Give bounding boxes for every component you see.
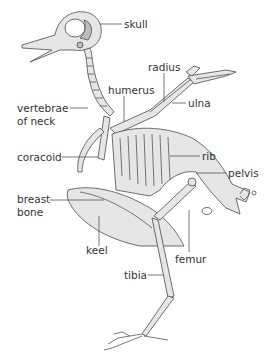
label-rib: rib: [202, 150, 216, 162]
label-tibia: tibia: [124, 269, 147, 281]
label-skull: skull: [124, 18, 148, 30]
label-humerus: humerus: [108, 84, 154, 96]
neck-vertebrae-shape: [84, 48, 114, 116]
label-femur: femur: [175, 253, 206, 265]
label-coracoid: coracoid: [17, 151, 62, 163]
label-pelvis: pelvis: [228, 167, 259, 179]
label-radius: radius: [148, 61, 180, 73]
wing-shape: [110, 66, 236, 134]
label-of-neck: of neck: [17, 115, 55, 127]
label-bone: bone: [17, 206, 43, 218]
breastbone-keel-shape: [67, 188, 184, 246]
label-vertebrae: vertebrae: [17, 102, 68, 114]
shoulder-shape: [78, 116, 110, 172]
label-keel: keel: [86, 244, 108, 256]
label-ulna: ulna: [188, 97, 211, 109]
bird-skeleton-diagram: skull radius vertebrae of neck humerus u…: [0, 0, 276, 354]
label-breast: breast: [17, 193, 50, 205]
